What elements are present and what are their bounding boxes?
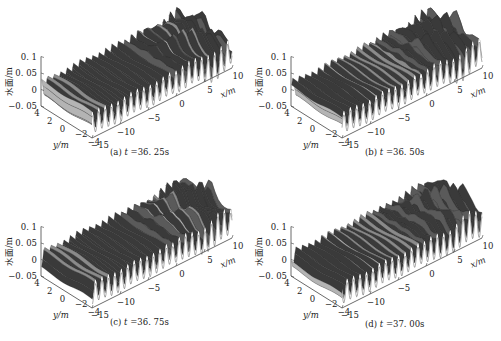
z-tick-label: −0. 05 <box>258 271 287 281</box>
z-tick-label: 0. 05 <box>15 68 37 78</box>
z-axis-label: 水面/m <box>4 67 14 96</box>
y-tick-label: −2 <box>75 129 88 139</box>
z-axis-label: 水面/m <box>4 237 14 266</box>
z-axis-label: 水面/m <box>254 67 264 96</box>
y-tick-label: 2 <box>297 286 302 296</box>
y-tick-label: 4 <box>284 278 289 288</box>
z-tick-label: 0. 1 <box>271 222 287 232</box>
x-tick-label: −10 <box>117 127 135 137</box>
z-tick <box>41 243 44 244</box>
z-tick-label: −0. 05 <box>8 271 37 281</box>
wave-surface <box>292 180 482 308</box>
x-tick-label: 10 <box>483 71 494 81</box>
x-axis-label: x/m <box>219 85 237 100</box>
x-tick-label: −15 <box>91 310 109 320</box>
z-tick-label: 0. 05 <box>15 238 37 248</box>
y-axis-label: y/m <box>52 140 69 150</box>
z-tick <box>291 260 294 261</box>
z-tick-label: 0. 1 <box>21 222 37 232</box>
x-tick-label: 0 <box>429 269 434 279</box>
caption-letter: (c) <box>110 317 124 327</box>
caption-letter: (a) <box>110 147 124 157</box>
subplot-caption: (a) t =36. 25s <box>110 147 169 157</box>
x-tick-label: 10 <box>233 241 244 251</box>
y-tick-label: 0 <box>310 294 315 304</box>
x-tick <box>232 65 233 68</box>
z-tick <box>41 73 44 74</box>
x-tick-label: 5 <box>207 255 212 265</box>
x-tick-label: 10 <box>233 71 244 81</box>
caption-time: =36. 25s <box>131 147 170 157</box>
caption-letter: (b) <box>365 147 380 157</box>
subplot-caption: (c) t =36. 75s <box>110 317 169 327</box>
y-tick-label: −2 <box>75 299 88 309</box>
z-tick <box>291 227 294 228</box>
x-axis-label: x/m <box>469 255 487 270</box>
y-tick-label: 2 <box>47 286 52 296</box>
caption-time: =37. 00s <box>386 319 425 329</box>
surface-plot: 0. 10. 050−0. 05水面/m420−2−4y/m−15−10−505… <box>250 0 500 170</box>
z-tick-label: 0 <box>282 85 287 95</box>
wave-surface <box>42 8 232 139</box>
z-tick-label: −0. 05 <box>8 101 37 111</box>
y-tick-label: −2 <box>325 299 338 309</box>
x-tick-label: −15 <box>341 310 359 320</box>
surface-plot: 0. 10. 050−0. 05水面/m420−2−4y/m−15−10−505… <box>0 0 250 170</box>
caption-time: =36. 75s <box>130 317 169 327</box>
x-tick-label: −15 <box>91 140 109 150</box>
z-tick <box>291 90 294 91</box>
x-tick-label: 0 <box>179 99 184 109</box>
z-tick-label: 0. 1 <box>21 52 37 62</box>
wave-surface <box>42 179 232 308</box>
x-tick-label: −10 <box>367 127 385 137</box>
wave-surface <box>292 8 482 138</box>
x-tick <box>482 235 483 238</box>
x-tick-label: −10 <box>367 297 385 307</box>
y-tick-label: 0 <box>60 294 65 304</box>
z-axis-label: 水面/m <box>254 237 264 266</box>
subplot-c: 0. 10. 050−0. 05水面/m420−2−4y/m−15−10−505… <box>0 170 250 340</box>
caption-time: =36. 50s <box>386 147 425 157</box>
y-tick-label: 4 <box>284 108 289 118</box>
z-tick-label: 0. 1 <box>271 52 287 62</box>
z-tick <box>41 57 44 58</box>
subplot-a: 0. 10. 050−0. 05水面/m420−2−4y/m−15−10−505… <box>0 0 250 170</box>
caption-letter: (d) <box>365 319 380 329</box>
x-tick-label: 5 <box>207 85 212 95</box>
subplot-caption: (d) t =37. 00s <box>365 319 424 329</box>
surface-plot: 0. 10. 050−0. 05水面/m420−2−4y/m−15−10−505… <box>0 170 250 340</box>
subplot-d: 0. 10. 050−0. 05水面/m420−2−4y/m−15−10−505… <box>250 170 500 340</box>
y-axis-label: y/m <box>302 140 319 150</box>
z-tick-label: −0. 05 <box>258 101 287 111</box>
x-tick <box>482 65 483 68</box>
z-tick <box>291 243 294 244</box>
subplot-caption: (b) t =36. 50s <box>365 147 424 157</box>
x-tick-label: 10 <box>483 241 494 251</box>
z-tick-label: 0. 05 <box>265 238 287 248</box>
x-tick-label: −5 <box>398 113 411 123</box>
x-tick-label: −10 <box>117 297 135 307</box>
z-tick-label: 0 <box>32 255 37 265</box>
y-tick-label: 4 <box>34 108 39 118</box>
z-tick-label: 0 <box>282 255 287 265</box>
surface-plot: 0. 10. 050−0. 05水面/m420−2−4y/m−15−10−505… <box>250 170 500 340</box>
x-tick-label: 5 <box>457 255 462 265</box>
y-axis-label: y/m <box>52 310 69 320</box>
x-tick-label: −5 <box>148 113 161 123</box>
y-tick-label: 0 <box>60 124 65 134</box>
x-tick-label: −5 <box>148 283 161 293</box>
x-tick-label: −15 <box>341 140 359 150</box>
x-tick-label: 0 <box>179 269 184 279</box>
y-tick-label: 0 <box>310 124 315 134</box>
x-tick <box>232 235 233 238</box>
z-tick <box>291 57 294 58</box>
z-tick-label: 0 <box>32 85 37 95</box>
x-axis-label: x/m <box>219 255 237 270</box>
x-tick-label: 5 <box>457 85 462 95</box>
subplot-b: 0. 10. 050−0. 05水面/m420−2−4y/m−15−10−505… <box>250 0 500 170</box>
z-tick-label: 0. 05 <box>265 68 287 78</box>
y-tick-label: 2 <box>297 116 302 126</box>
x-axis-label: x/m <box>469 85 487 100</box>
y-tick-label: 4 <box>34 278 39 288</box>
x-tick-label: −5 <box>398 283 411 293</box>
